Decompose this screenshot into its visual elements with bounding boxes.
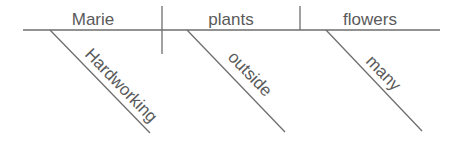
object-word: flowers	[343, 10, 397, 29]
modifier-line-subject	[50, 30, 150, 133]
subject-word: Marie	[72, 10, 115, 29]
modifier-word-hardworking: Hardworking	[81, 45, 161, 127]
modifier-line-object	[326, 30, 422, 131]
sentence-diagram: Marie plants flowers Hardworking outside…	[0, 0, 460, 146]
verb-word: plants	[208, 10, 253, 29]
modifier-word-outside: outside	[224, 48, 276, 101]
modifier-word-many: many	[362, 52, 405, 95]
